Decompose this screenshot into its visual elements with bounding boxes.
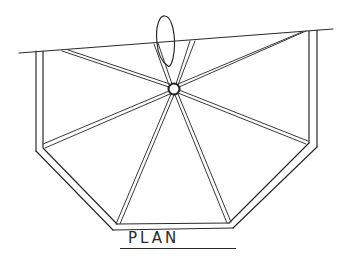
bottom-right-diagonal-outer [233, 147, 317, 228]
plan-drawing [0, 0, 349, 259]
radial-spokes [43, 31, 308, 224]
plan-label: PLAN [128, 229, 179, 247]
bottom-edge-inner [117, 223, 229, 224]
bottom-right-diagonal-inner [229, 143, 309, 223]
bottom-left-diagonal-outer [36, 151, 113, 230]
bottom-left-diagonal-inner [43, 148, 117, 224]
top-edge-line [19, 29, 333, 53]
central-hub [169, 84, 180, 95]
plan-label-underline [120, 248, 236, 249]
